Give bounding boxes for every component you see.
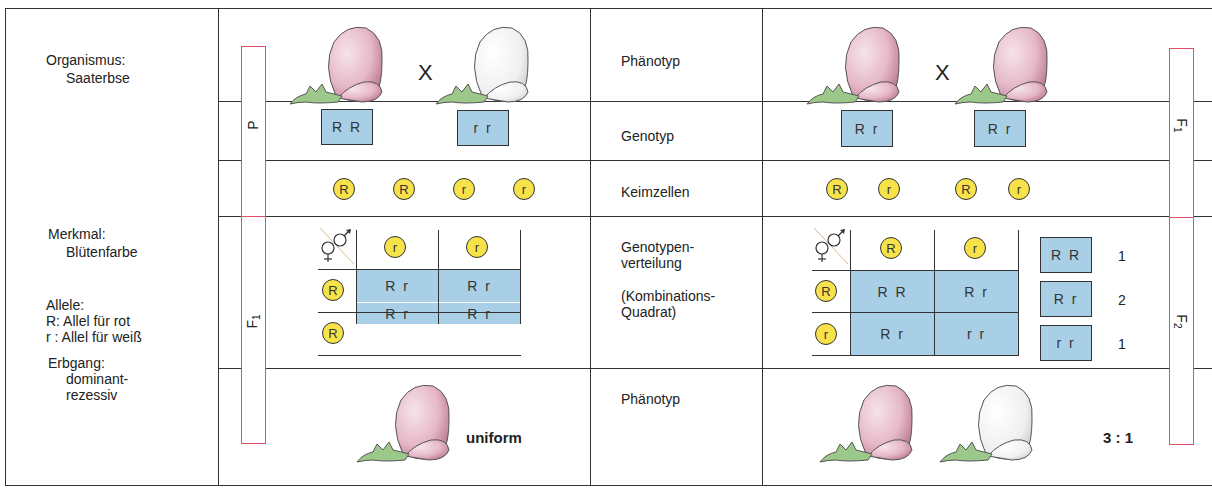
punnett2-cell: R R xyxy=(851,271,934,312)
row-label-genotype: Genotyp xyxy=(621,128,674,144)
row-label-gametes: Keimzellen xyxy=(621,184,689,200)
trait-label: Merkmal: xyxy=(48,226,106,242)
frame-left xyxy=(5,8,6,485)
row-label-phenotype: Phänotyp xyxy=(621,53,680,69)
alleles-label: Allele: xyxy=(46,297,84,313)
sex-symbols-icon xyxy=(812,228,852,268)
trait-value: Blütenfarbe xyxy=(66,244,138,260)
row-label-distribution-2: verteilung xyxy=(621,255,682,271)
flower-red-icon xyxy=(953,22,1053,106)
distribution-count: 2 xyxy=(1118,292,1126,308)
inheritance-value-2: rezessiv xyxy=(66,387,117,403)
flower-white-icon xyxy=(434,22,534,106)
gamete-header-male: r xyxy=(384,236,406,258)
flower-white-icon xyxy=(938,380,1038,464)
gamete-circle: R xyxy=(955,178,977,200)
distribution-count: 1 xyxy=(1118,248,1126,264)
gamete-header-male: r xyxy=(466,236,488,258)
gamete-circle: r xyxy=(513,178,535,200)
row-label-offspring-phenotype: Phänotyp xyxy=(621,391,680,407)
organism-value: Saaterbse xyxy=(66,70,130,86)
punnett1-cell: R r xyxy=(439,303,520,324)
column-divider-left xyxy=(218,8,219,485)
cross-symbol-1: X xyxy=(418,60,433,86)
genotype-box-parent1: R R xyxy=(321,109,373,145)
allele-recessive: r : Allel für weiß xyxy=(46,329,142,345)
gamete-header-female: R xyxy=(322,279,344,301)
column-divider-mid-right xyxy=(762,8,763,485)
flower-red-icon xyxy=(805,22,905,106)
punnett1-line xyxy=(318,269,521,270)
bracket-f1-left xyxy=(241,216,266,444)
row-line-4 xyxy=(218,368,1212,369)
gamete-circle: R xyxy=(393,178,415,200)
inheritance-value-1: dominant- xyxy=(66,371,128,387)
bracket-label-p: P xyxy=(245,120,261,129)
gamete-header-female: R xyxy=(322,322,344,344)
sex-symbols-icon xyxy=(318,228,358,268)
bracket-p xyxy=(241,46,266,217)
row-label-distribution-1: Genotypen- xyxy=(621,239,694,255)
bracket-label-f2-right: F2 xyxy=(1172,314,1191,328)
punnett1-line xyxy=(318,312,521,313)
distribution-count: 1 xyxy=(1118,336,1126,352)
punnett2-line xyxy=(812,355,1019,356)
bracket-f1-right xyxy=(1169,48,1194,218)
flower-red-icon xyxy=(288,22,388,106)
punnett1-cell: R r xyxy=(439,270,520,302)
punnett2-cell: R r xyxy=(935,271,1018,312)
punnett2-line xyxy=(1018,230,1019,356)
allele-dominant: R: Allel für rot xyxy=(46,313,130,329)
organism-label: Organismus: xyxy=(46,52,125,68)
frame-top xyxy=(5,8,1212,9)
flower-red-icon xyxy=(355,380,455,464)
gamete-circle: r xyxy=(1008,178,1030,200)
bracket-label-f1-right: F1 xyxy=(1172,118,1191,132)
gamete-header-female: r xyxy=(815,323,837,345)
row-line-3 xyxy=(218,216,1212,217)
genotype-box-parent2: R r xyxy=(974,110,1026,147)
row-label-combination-2: Quadrat) xyxy=(621,304,676,320)
punnett1-line xyxy=(520,230,521,324)
column-divider-mid-left xyxy=(590,8,591,485)
punnett1-cell: R r xyxy=(357,303,438,324)
gamete-circle: R xyxy=(826,178,848,200)
punnett2-line xyxy=(934,230,935,356)
bracket-f2-right xyxy=(1169,217,1194,445)
bracket-label-f1-left: F1 xyxy=(244,314,263,328)
frame-bottom xyxy=(5,485,1212,486)
punnett1-cell: R r xyxy=(357,270,438,302)
gamete-circle: r xyxy=(878,178,900,200)
flower-red-icon xyxy=(818,380,918,464)
punnett2-cell: r r xyxy=(935,313,1018,355)
gamete-header-male: r xyxy=(964,237,986,259)
punnett1-line xyxy=(318,355,521,356)
ratio-label: 3 : 1 xyxy=(1103,430,1133,446)
distribution-genotype-box: R r xyxy=(1040,281,1092,317)
distribution-genotype-box: r r xyxy=(1040,325,1092,361)
punnett2-line xyxy=(850,230,851,356)
punnett2-cell: R r xyxy=(851,313,934,355)
punnett2-line xyxy=(812,270,1019,271)
gamete-circle: r xyxy=(453,178,475,200)
row-label-combination-1: (Kombinations- xyxy=(621,288,715,304)
genotype-box-parent2: r r xyxy=(457,110,509,146)
gamete-header-female: R xyxy=(815,280,837,302)
gamete-circle: R xyxy=(333,178,355,200)
inheritance-label: Erbgang: xyxy=(48,355,105,371)
punnett2-line xyxy=(812,312,1019,313)
gamete-header-male: R xyxy=(880,237,902,259)
uniform-label: uniform xyxy=(466,430,522,446)
row-line-2 xyxy=(218,160,1212,161)
genotype-box-parent1: R r xyxy=(841,110,893,147)
distribution-genotype-box: R R xyxy=(1040,237,1092,273)
cross-symbol-2: X xyxy=(935,60,950,86)
